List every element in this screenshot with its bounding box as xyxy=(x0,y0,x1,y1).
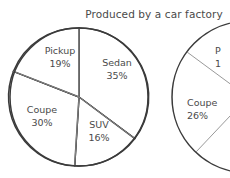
pie-chart-figure: Produced by a car factory xyxy=(0,0,230,178)
pie-label-pickup: Pickup 19% xyxy=(36,44,84,70)
pie-label-pickup-value: 19% xyxy=(36,57,84,70)
pie-label-coupe: Coupe 30% xyxy=(18,103,66,129)
pie-label-sedan-name: Sedan xyxy=(94,56,140,69)
pie-label-suv-name: SUV xyxy=(80,118,118,131)
pie-label-pickup-name: Pickup xyxy=(36,44,84,57)
pie-label-right-clipped-value: 1 xyxy=(215,57,230,70)
pie-label-suv-value: 16% xyxy=(80,131,118,144)
pie-label-suv: SUV 16% xyxy=(80,118,118,144)
pie-label-sedan: Sedan 35% xyxy=(94,56,140,82)
pie-label-right-coupe: Coupe 26% xyxy=(187,96,230,122)
pie-charts-svg xyxy=(0,0,230,178)
pie-label-coupe-name: Coupe xyxy=(18,103,66,116)
pie-label-right-clipped-name: P xyxy=(215,44,230,57)
pie-label-right-clipped: P 1 xyxy=(215,44,230,70)
pie-label-sedan-value: 35% xyxy=(94,69,140,82)
pie-label-right-coupe-name: Coupe xyxy=(187,96,230,109)
pie-label-right-coupe-value: 26% xyxy=(187,109,230,122)
pie-label-coupe-value: 30% xyxy=(18,116,66,129)
